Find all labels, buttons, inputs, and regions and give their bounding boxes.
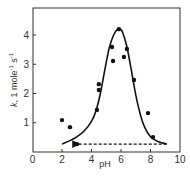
y-axis-ticks: 1234 [23, 30, 36, 129]
y-axis-title: k, 1 mole-1 s-1 [8, 52, 19, 107]
y-axis-title-sup2: -1 [8, 52, 14, 58]
plot-frame [33, 8, 180, 152]
data-point [146, 111, 150, 115]
data-point [75, 142, 79, 146]
y-tick-label: 1 [23, 117, 29, 128]
y-axis-title-units: , 1 mole [9, 71, 19, 103]
data-point [97, 82, 101, 86]
data-point [151, 135, 155, 139]
x-tick-label: 0 [30, 154, 36, 165]
fitted-curve [62, 28, 167, 144]
x-tick-label: 2 [59, 154, 65, 165]
data-point [97, 88, 101, 92]
y-tick-label: 3 [23, 59, 29, 70]
data-point [117, 27, 121, 31]
y-tick-label: 4 [23, 30, 29, 41]
chart-svg: 0246810 1234 pH k, 1 mole-1 s-1 [0, 0, 190, 178]
data-point [60, 118, 64, 122]
series-layer [60, 27, 167, 146]
data-point [95, 108, 99, 112]
data-point [125, 47, 129, 51]
data-point [132, 78, 136, 82]
x-tick-label: 4 [89, 154, 95, 165]
x-tick-label: 8 [148, 154, 154, 165]
x-tick-label: 10 [174, 154, 186, 165]
y-tick-label: 2 [23, 88, 29, 99]
data-point [68, 125, 72, 129]
data-point [111, 59, 115, 63]
x-axis-title: pH [99, 159, 111, 169]
chart: 0246810 1234 pH k, 1 mole-1 s-1 [0, 0, 190, 178]
data-point [110, 45, 114, 49]
x-tick-label: 6 [118, 154, 124, 165]
data-point [122, 55, 126, 59]
